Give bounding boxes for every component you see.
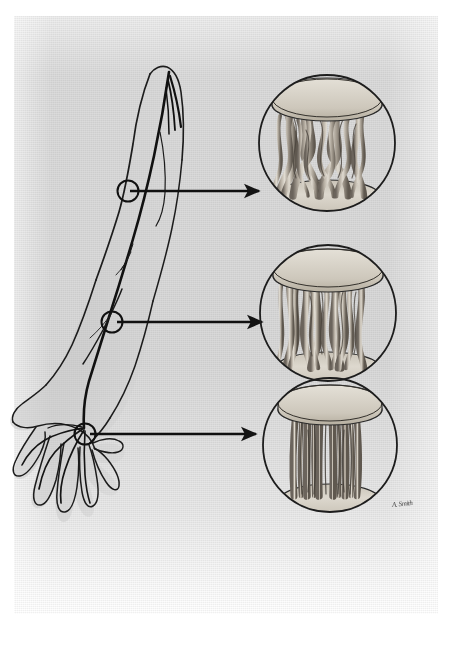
inset-proximal (259, 75, 395, 212)
nerve-disc-upper (272, 78, 382, 121)
anatomical-figure: A. Smith Topographical fascicular struct… (0, 0, 453, 655)
inset-middle (260, 245, 396, 384)
limb-drawing (10, 65, 183, 522)
limb-silhouette (10, 65, 182, 522)
illustration-canvas (0, 0, 453, 655)
nerve-disc-upper (273, 249, 383, 292)
nerve-disc-upper (278, 385, 382, 425)
inset-distal (263, 378, 397, 514)
